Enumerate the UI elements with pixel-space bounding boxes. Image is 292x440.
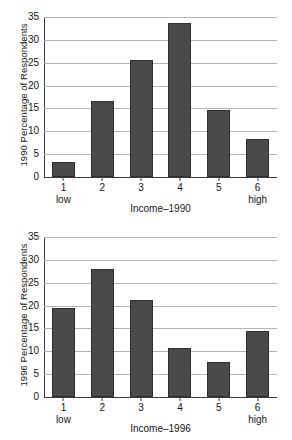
x-axis-title-1996: Income–1996 xyxy=(44,423,277,434)
y-tick-label: 30 xyxy=(28,35,39,45)
y-tick-label: 35 xyxy=(28,12,39,22)
bar xyxy=(130,60,153,177)
x-tick xyxy=(218,178,219,181)
gridline xyxy=(44,108,277,109)
y-tick-label: 20 xyxy=(28,301,39,311)
gridline xyxy=(44,351,277,352)
bar xyxy=(207,362,230,397)
x-tick-label: 2 xyxy=(99,402,105,413)
gridline xyxy=(44,306,277,307)
x-tick-label: 6 xyxy=(255,182,261,193)
x-tick-label: 4 xyxy=(177,402,183,413)
y-tick-label: 30 xyxy=(28,255,39,265)
gridline xyxy=(44,131,277,132)
x-tick xyxy=(257,178,258,181)
gridline xyxy=(44,63,277,64)
chart-1996: 1996 Percentage of Respondents 051015202… xyxy=(0,220,292,440)
y-tick-label: 35 xyxy=(28,232,39,242)
y-tick-label: 0 xyxy=(33,172,39,182)
y-axis-title-1996: 1996 Percentage of Respondents xyxy=(16,225,32,405)
bar xyxy=(52,162,75,177)
gridline xyxy=(44,328,277,329)
plot-area-1996: 051015202530351low23456high xyxy=(44,237,277,398)
y-tick-label: 5 xyxy=(33,369,39,379)
x-tick-label: 5 xyxy=(216,402,222,413)
x-tick xyxy=(179,398,180,401)
y-axis-title-1990: 1990 Percentage of Respondents xyxy=(16,5,32,185)
y-tick-label: 15 xyxy=(28,323,39,333)
y-tick-label: 15 xyxy=(28,103,39,113)
gridline xyxy=(44,237,277,238)
gridline xyxy=(44,283,277,284)
y-tick-label: 5 xyxy=(33,149,39,159)
x-tick xyxy=(63,178,64,181)
gridline xyxy=(44,40,277,41)
x-axis-title-1990: Income–1990 xyxy=(44,203,277,214)
bar xyxy=(130,300,153,397)
x-tick xyxy=(63,398,64,401)
x-tick-label: 4 xyxy=(177,182,183,193)
x-tick xyxy=(257,398,258,401)
bar xyxy=(52,308,75,397)
x-tick-label: 5 xyxy=(216,182,222,193)
y-tick-label: 20 xyxy=(28,81,39,91)
x-tick-label: 1 xyxy=(61,402,67,413)
y-tick-label: 10 xyxy=(28,126,39,136)
y-tick-label: 25 xyxy=(28,58,39,68)
gridline xyxy=(44,17,277,18)
gridline xyxy=(44,154,277,155)
bar xyxy=(246,331,269,397)
y-tick-label: 10 xyxy=(28,346,39,356)
x-axis-line xyxy=(44,177,277,178)
gridline xyxy=(44,260,277,261)
bar xyxy=(207,110,230,177)
bar xyxy=(91,269,114,397)
bar xyxy=(246,139,269,177)
x-tick-label: 1 xyxy=(61,182,67,193)
bar xyxy=(168,23,191,177)
y-tick-label: 25 xyxy=(28,278,39,288)
x-tick xyxy=(102,398,103,401)
x-tick xyxy=(218,398,219,401)
gridline xyxy=(44,86,277,87)
x-tick xyxy=(102,178,103,181)
plot-area-1990: 051015202530351low23456high xyxy=(44,17,277,178)
x-axis-line xyxy=(44,397,277,398)
y-tick-label: 0 xyxy=(33,392,39,402)
x-tick xyxy=(141,398,142,401)
chart-1990: 1990 Percentage of Respondents 051015202… xyxy=(0,0,292,220)
x-tick xyxy=(179,178,180,181)
x-tick-label: 3 xyxy=(138,402,144,413)
gridline xyxy=(44,374,277,375)
x-tick-label: 2 xyxy=(99,182,105,193)
x-tick-label: 6 xyxy=(255,402,261,413)
bar xyxy=(91,101,114,177)
x-tick xyxy=(141,178,142,181)
bar xyxy=(168,348,191,397)
x-tick-label: 3 xyxy=(138,182,144,193)
